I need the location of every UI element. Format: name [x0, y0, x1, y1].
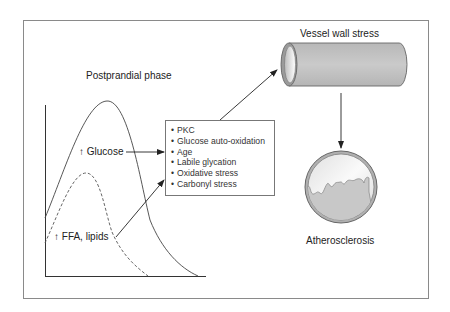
ffa-label: ↑ FFA, lipids: [54, 231, 108, 242]
vessel-tube-icon: [281, 43, 407, 86]
mechanism-item: Carbonyl stress: [171, 179, 274, 190]
mechanism-to-vessel-arrow: [220, 70, 277, 120]
artery-cross-section-icon: [305, 151, 377, 230]
vessel-label: Vessel wall stress: [300, 28, 379, 39]
ffa-arrow: [116, 180, 164, 237]
ffa-curve: [45, 173, 148, 276]
mechanisms-box: PKC Glucose auto-oxidation Age Labile gl…: [165, 120, 275, 196]
mechanism-item: PKC: [171, 125, 274, 136]
outcome-label: Atherosclerosis: [306, 235, 374, 246]
phase-title: Postprandial phase: [86, 70, 172, 81]
mechanism-item: Age: [171, 147, 274, 158]
mechanisms-list: PKC Glucose auto-oxidation Age Labile gl…: [171, 125, 274, 190]
glucose-label: ↑ Glucose: [79, 146, 123, 157]
mechanism-item: Glucose auto-oxidation: [171, 136, 274, 147]
mechanism-item: Labile glycation: [171, 157, 274, 168]
mechanism-item: Oxidative stress: [171, 168, 274, 179]
